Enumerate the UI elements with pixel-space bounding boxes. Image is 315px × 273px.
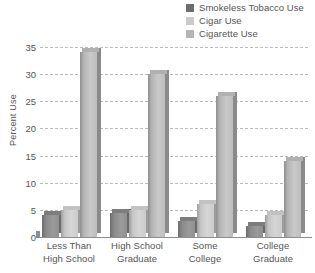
bar xyxy=(110,213,127,237)
bar-cap xyxy=(286,157,303,161)
bar xyxy=(80,52,97,237)
y-axis-origin-tick xyxy=(36,231,40,237)
legend-item-smokeless-tobacco-use: Smokeless Tobacco Use xyxy=(186,2,304,13)
bar xyxy=(284,161,301,237)
category-label-line: College xyxy=(242,240,304,253)
bar-cap xyxy=(150,70,167,74)
chart-legend: Smokeless Tobacco Use Cigar Use Cigarett… xyxy=(186,2,304,39)
bar-cap xyxy=(63,206,80,210)
y-axis-tick-label: 25 xyxy=(25,96,36,107)
bar-cap xyxy=(82,48,99,52)
bar-face xyxy=(80,52,97,237)
x-axis-category-label: High SchoolGraduate xyxy=(106,240,168,265)
category-label-line: Less Than xyxy=(38,240,100,253)
legend-label: Cigarette Use xyxy=(199,29,258,39)
bar-face xyxy=(284,161,301,237)
category-label-line: Graduate xyxy=(106,253,168,266)
legend-swatch-icon xyxy=(186,17,194,25)
category-label-line: High School xyxy=(38,253,100,266)
bar-side xyxy=(301,157,305,233)
bar xyxy=(197,204,214,237)
x-axis-line xyxy=(36,237,312,238)
bar-face xyxy=(110,213,127,237)
legend-item-cigarette-use: Cigarette Use xyxy=(186,28,304,39)
bar-cap xyxy=(131,206,148,210)
plot-bars xyxy=(40,47,308,237)
bar-cap xyxy=(199,200,216,204)
bar-face xyxy=(197,204,214,237)
x-axis-category-label: SomeCollege xyxy=(174,240,236,265)
legend-swatch-icon xyxy=(186,30,194,38)
y-axis-ticks: 05101520253035 xyxy=(14,47,36,237)
y-axis-tick-label: 5 xyxy=(31,204,36,215)
y-axis-tick-label: 10 xyxy=(25,177,36,188)
bar xyxy=(178,221,195,237)
category-label-line: Graduate xyxy=(242,253,304,266)
bar-chart: Smokeless Tobacco Use Cigar Use Cigarett… xyxy=(0,0,315,273)
bar-face xyxy=(42,215,59,237)
x-axis-category-label: CollegeGraduate xyxy=(242,240,304,265)
bar-cap xyxy=(112,209,129,213)
bar-face xyxy=(216,96,233,237)
bar-face xyxy=(129,210,146,237)
bar-side xyxy=(97,48,101,233)
bar-cap xyxy=(248,222,265,226)
legend-item-cigar-use: Cigar Use xyxy=(186,15,304,26)
bar-face xyxy=(265,215,282,237)
bar-cap xyxy=(180,217,197,221)
bar-face xyxy=(148,74,165,237)
x-axis-category-label: Less ThanHigh School xyxy=(38,240,100,265)
bar xyxy=(246,226,263,237)
bar-side xyxy=(165,70,169,233)
category-label-line: High School xyxy=(106,240,168,253)
bar xyxy=(216,96,233,237)
bar xyxy=(148,74,165,237)
y-axis-tick-label: 20 xyxy=(25,123,36,134)
y-axis-tick-label: 35 xyxy=(25,42,36,53)
bar-cap xyxy=(218,92,235,96)
bar-side xyxy=(233,92,237,233)
category-label-line: College xyxy=(174,253,236,266)
category-label-line: Some xyxy=(174,240,236,253)
bar-cap xyxy=(44,211,61,215)
y-axis-tick-label: 30 xyxy=(25,69,36,80)
bar-face xyxy=(246,226,263,237)
bar xyxy=(129,210,146,237)
bar xyxy=(61,210,78,237)
legend-label: Cigar Use xyxy=(199,16,242,26)
legend-swatch-icon xyxy=(186,4,194,12)
bar-cap xyxy=(267,211,284,215)
bar-face xyxy=(178,221,195,237)
bar xyxy=(265,215,282,237)
y-axis-tick-label: 15 xyxy=(25,150,36,161)
bar xyxy=(42,215,59,237)
bar-face xyxy=(61,210,78,237)
x-axis-category-labels: Less ThanHigh SchoolHigh SchoolGraduateS… xyxy=(36,240,312,272)
legend-label: Smokeless Tobacco Use xyxy=(199,3,304,13)
